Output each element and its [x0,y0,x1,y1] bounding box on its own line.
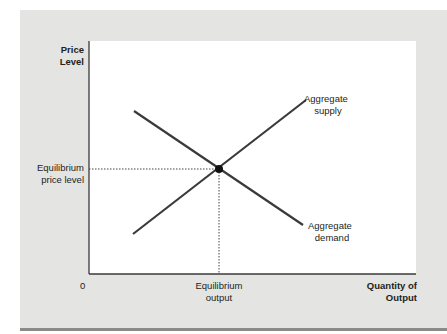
equilibrium-output-label: Equilibrium output [184,280,254,304]
x-axis-label: Quantity of Output [360,280,417,304]
aggregate-demand-label-line1: Aggregate [308,220,368,232]
y-axis-label-line1: Price [40,44,84,56]
equilibrium-point [215,165,223,173]
aggregate-supply-label: Aggregate supply [304,93,364,117]
x-axis-label-line2: Output [360,292,417,304]
aggregate-demand-label-line2: demand [308,232,356,244]
aggregate-supply-label-line1: Aggregate [304,93,364,105]
x-axis-label-line1: Quantity of [360,280,417,292]
equilibrium-price-label: Equilibrium price level [22,162,84,186]
equilibrium-price-label-line2: price level [22,174,84,186]
y-axis-label: Price Level [40,44,84,68]
origin-label: 0 [80,280,85,292]
y-axis-label-line2: Level [40,56,84,68]
aggregate-demand-label: Aggregate demand [308,220,368,244]
equilibrium-price-label-line1: Equilibrium [22,162,84,174]
equilibrium-output-label-line1: Equilibrium [184,280,254,292]
aggregate-supply-label-line2: supply [304,105,352,117]
equilibrium-output-label-line2: output [184,292,254,304]
